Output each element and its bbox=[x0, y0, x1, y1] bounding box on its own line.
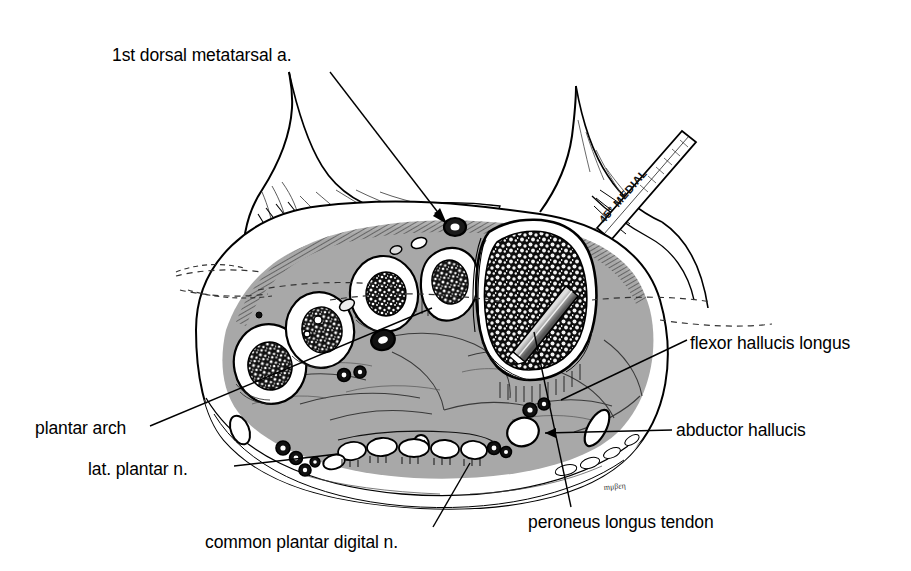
label-common-plantar-digital-nerve: common plantar digital n. bbox=[205, 532, 398, 553]
label-flexor-hallucis-longus: flexor hallucis longus bbox=[690, 333, 850, 354]
label-plantar-arch: plantar arch bbox=[35, 418, 126, 439]
label-peroneus-longus-tendon: peroneus longus tendon bbox=[528, 512, 714, 533]
label-1st-dorsal-metatarsal-artery: 1st dorsal metatarsal a. bbox=[112, 45, 292, 66]
label-abductor-hallucis: abductor hallucis bbox=[676, 420, 806, 441]
surgical-blade: 45° MEDIAL bbox=[590, 131, 696, 246]
vessel-1st-dorsal-metatarsal-artery bbox=[444, 218, 466, 236]
artist-signature: mμβεη bbox=[603, 481, 626, 492]
figure-page: 45° MEDIAL bbox=[0, 0, 911, 571]
anatomy-illustration: 45° MEDIAL bbox=[0, 0, 911, 571]
label-lateral-plantar-nerve: lat. plantar n. bbox=[88, 459, 188, 480]
